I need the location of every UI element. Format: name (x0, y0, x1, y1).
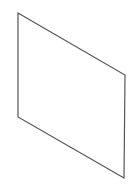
diagram-canvas (0, 0, 137, 187)
parallelogram-plane (18, 13, 125, 178)
